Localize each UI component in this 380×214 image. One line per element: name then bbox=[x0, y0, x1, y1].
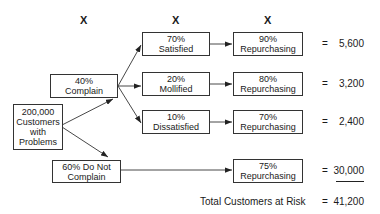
outcome-percent: 10% bbox=[167, 112, 185, 122]
repurchasing-label: Repurchasing bbox=[240, 122, 296, 132]
complain-node: 40% Complain bbox=[50, 74, 118, 98]
not-complain-node: 60% Do Not Complain bbox=[52, 160, 121, 183]
column-marker: X bbox=[80, 14, 87, 26]
complain-label: Complain bbox=[65, 86, 103, 96]
outcome-percent: 20% bbox=[167, 74, 185, 84]
outcome-mollified: 20% Mollified bbox=[142, 72, 210, 96]
root-label: with bbox=[30, 127, 46, 137]
outcome-label: Mollified bbox=[159, 84, 192, 94]
result-value: 5,600 bbox=[320, 38, 364, 49]
outcome-dissatisfied: 10% Dissatisfied bbox=[142, 110, 210, 134]
repurchasing-percent: 80% bbox=[259, 74, 277, 84]
sum-rule bbox=[336, 181, 364, 182]
repurchasing-node: 75% Repurchasing bbox=[233, 159, 303, 183]
outcome-satisfied: 70% Satisfied bbox=[142, 32, 210, 56]
repurchasing-percent: 75% bbox=[259, 161, 277, 171]
column-marker: X bbox=[264, 14, 271, 26]
repurchasing-percent: 90% bbox=[259, 34, 277, 44]
result-value: 30,000 bbox=[320, 165, 364, 176]
root-count: 200,000 bbox=[22, 107, 55, 117]
outcome-percent: 70% bbox=[167, 34, 185, 44]
repurchasing-node: 90% Repurchasing bbox=[233, 32, 303, 56]
result-value: 2,400 bbox=[320, 116, 364, 127]
complain-percent: 40% bbox=[75, 76, 93, 86]
root-label: Problems bbox=[19, 137, 57, 147]
result-value: 3,200 bbox=[320, 78, 364, 89]
repurchasing-label: Repurchasing bbox=[240, 84, 296, 94]
outcome-label: Satisfied bbox=[159, 44, 194, 54]
repurchasing-node: 80% Repurchasing bbox=[233, 72, 303, 96]
repurchasing-percent: 70% bbox=[259, 112, 277, 122]
total-label: Total Customers at Risk bbox=[200, 196, 306, 207]
column-marker: X bbox=[172, 14, 179, 26]
outcome-label: Dissatisfied bbox=[153, 122, 199, 132]
repurchasing-label: Repurchasing bbox=[240, 44, 296, 54]
not-complain-label: Complain bbox=[67, 172, 105, 182]
repurchasing-label: Repurchasing bbox=[240, 171, 296, 181]
not-complain-percent: 60% Do Not bbox=[62, 162, 111, 172]
root-node: 200,000 Customers with Problems bbox=[13, 104, 63, 150]
total-value: 41,200 bbox=[320, 196, 364, 207]
root-label: Customers bbox=[16, 117, 60, 127]
repurchasing-node: 70% Repurchasing bbox=[233, 110, 303, 134]
